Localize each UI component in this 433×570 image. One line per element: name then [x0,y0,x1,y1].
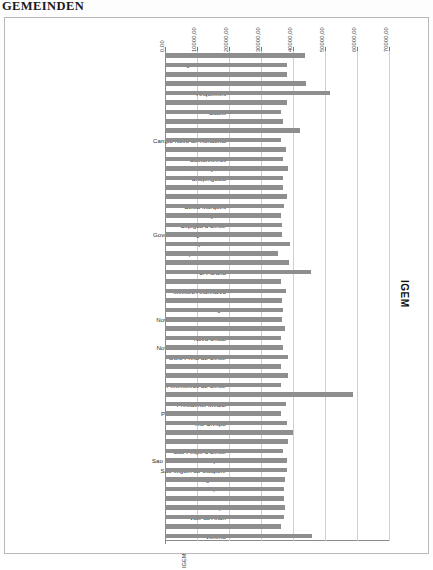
chart-row: Ariquemes [165,89,389,98]
bar [165,100,287,105]
chart-row: Cujubim [165,211,389,220]
chart-row: Rio Crespo [165,419,389,428]
bar [165,496,284,501]
chart-row: Vale do Paraiso [165,522,389,531]
bar [165,213,281,218]
chart-row: Rolim de Moura [165,428,389,437]
chart-row: Primavera de Rondonia [165,409,389,418]
chart-row: Nova Uniao [165,334,389,343]
bar [165,439,288,444]
chart-row: Machadinho d'Oeste [165,277,389,286]
bar [165,326,285,331]
bar [165,515,284,520]
bottom-axis-note-text: IGEM [181,554,187,568]
bar [165,128,300,133]
chart-row: Teixeiropolis [165,484,389,493]
bar [165,317,282,322]
chart-row: Pimenteiras do Oeste [165,381,389,390]
bar [165,119,283,124]
series-legend-text: IGEM [399,280,410,308]
bar [165,402,286,407]
bar [165,430,293,435]
chart-row: Ji-Parana [165,268,389,277]
chart-row: Campo Novo de Rondonia [165,136,389,145]
chart-row: Sao Francisco do Guapore [165,456,389,465]
page-title: GEMEINDEN [2,0,84,14]
x-axis-tick [389,47,390,51]
chart-row: Ouro Preto do Oeste [165,353,389,362]
chart-row: Parecis [165,362,389,371]
bar [165,505,285,510]
x-axis-tick-labels: 0,0010000,0020000,0030000,0040000,005000… [165,36,395,52]
bar [165,185,283,190]
bar [165,223,282,228]
chart-row: Espigao d'Oeste [165,221,389,230]
chart-row: Vilhena [165,532,389,541]
chart-row: Costa Marques [165,202,389,211]
chart-row: Sao Felipe d'Oeste [165,447,389,456]
bar [165,355,288,360]
chart-row: Ministro Andreazza [165,287,389,296]
chart-row: Cacaulandia [165,117,389,126]
bar [165,336,281,341]
bar [165,63,287,68]
chart-row: Alto Alegre do Parecis [165,60,389,69]
chart-row: Theobroma [165,494,389,503]
chart-row: Santa Luzia d'Oeste [165,437,389,446]
bar [165,383,281,388]
chart-row: Porto Velho [165,390,389,399]
chart-row: Governador Jorge Teixeira [165,230,389,239]
bar [165,289,286,294]
chart-row: Jaru [165,258,389,267]
gridline [389,51,390,541]
chart-row: Castanheiras [165,155,389,164]
chart-row: Alvorada d'Oeste [165,79,389,88]
bar [165,411,281,416]
bar [165,373,288,378]
bar [165,298,282,303]
chart-row: Itapua do Oeste [165,249,389,258]
chart-row: Seringueiras [165,475,389,484]
bar [165,477,285,482]
bar [165,487,284,492]
chart-row: Cabixi [165,108,389,117]
chart-row: Nova Mamore [165,324,389,333]
chart-row: Colorado do Oeste [165,183,389,192]
bar [165,458,287,463]
chart-row: Monte Negro [165,305,389,314]
bar [165,194,287,199]
bar [165,147,286,152]
bar [165,72,287,77]
bar [165,392,353,397]
bar [165,260,289,265]
bottom-axis-note: IGEM [181,546,221,570]
chart-row: Buritis [165,98,389,107]
chart-row: Corumbiara [165,192,389,201]
chart-row: Novo Horizonte do Oeste [165,343,389,352]
bar [165,364,281,369]
chart-row: Vale do Anari [165,513,389,522]
bar [165,242,290,247]
series-legend-label: IGEM [388,280,428,320]
bar [165,81,306,86]
bar [165,176,283,181]
chart-row: Nova Brasilandia d'Oeste [165,315,389,324]
bar [165,91,330,96]
bar [165,232,282,237]
chart-row: Mirante da Serra [165,296,389,305]
chart-row: Alto Paraiso [165,70,389,79]
chart-row: Sao Miguel do Guapore [165,466,389,475]
chart-row: Candeias do Jamari [165,145,389,154]
bar [165,270,311,275]
bar [165,279,281,284]
plot-area: Alta Floresta d'OesteAlto Alegre do Pare… [165,51,389,541]
bar [165,421,287,426]
bar [165,204,284,209]
bar [165,534,312,539]
chart-row: Presidente Medici [165,400,389,409]
bar [165,524,281,529]
chart-row: Pimenta Bueno [165,371,389,380]
bar [165,308,283,313]
chart-row: Chupinguaia [165,174,389,183]
